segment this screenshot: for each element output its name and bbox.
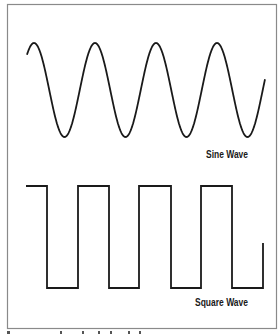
waveform-figure: Sine Wave Square Wave [0, 0, 278, 335]
page-bottom-marks [7, 331, 141, 334]
square-wave-curve [26, 186, 263, 288]
sine-wave-label: Sine Wave [206, 148, 248, 160]
sine-wave-curve [27, 43, 265, 137]
square-wave-label: Square Wave [195, 296, 248, 308]
